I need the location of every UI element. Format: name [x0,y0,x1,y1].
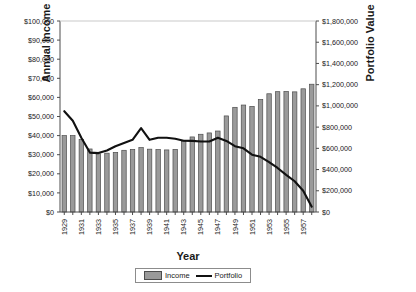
svg-text:$600,000: $600,000 [322,144,352,153]
svg-text:$1,800,000: $1,800,000 [322,17,358,26]
svg-text:1935: 1935 [111,219,120,235]
svg-text:$1,600,000: $1,600,000 [322,38,358,47]
svg-text:$70,000: $70,000 [28,74,54,83]
svg-text:$100,000: $100,000 [24,17,54,26]
y-axis-ticks-right: $0$200,000$400,000$600,000$800,000$1,000… [316,17,358,217]
legend-bar-swatch-icon [144,271,162,280]
line-series-portfolio [64,111,311,207]
legend-item-portfolio: Portfolio [196,271,243,280]
y-axis-ticks-left: $0$10,000$20,000$30,000$40,000$50,000$60… [24,17,60,217]
chart-legend: Income Portfolio [135,268,251,283]
svg-text:$10,000: $10,000 [28,189,54,198]
svg-text:$0: $0 [322,208,330,217]
x-axis-ticks: 1929193119331935193719391941194319451947… [60,212,312,235]
svg-text:$800,000: $800,000 [322,123,352,132]
svg-text:$90,000: $90,000 [28,36,54,45]
svg-text:1953: 1953 [265,219,274,235]
chart-container: Annual Income Portfolio Value Year $0$10… [0,0,416,292]
svg-text:$40,000: $40,000 [28,131,54,140]
svg-text:1931: 1931 [77,219,86,235]
svg-text:1941: 1941 [162,219,171,235]
svg-text:1957: 1957 [299,219,308,235]
svg-text:$1,400,000: $1,400,000 [322,59,358,68]
legend-item-income: Income [144,271,190,280]
svg-text:$80,000: $80,000 [28,55,54,64]
svg-text:$1,200,000: $1,200,000 [322,80,358,89]
legend-line-swatch-icon [196,275,212,277]
svg-text:$400,000: $400,000 [322,165,352,174]
svg-text:1939: 1939 [145,219,154,235]
legend-label-income: Income [165,271,190,280]
svg-text:1929: 1929 [60,219,69,235]
svg-text:$1,000,000: $1,000,000 [322,101,358,110]
svg-text:1943: 1943 [179,219,188,235]
svg-text:1937: 1937 [128,219,137,235]
legend-label-portfolio: Portfolio [215,271,243,280]
svg-text:1951: 1951 [248,219,257,235]
svg-text:$50,000: $50,000 [28,112,54,121]
svg-text:$30,000: $30,000 [28,150,54,159]
svg-text:$60,000: $60,000 [28,93,54,102]
svg-text:$0: $0 [46,208,54,217]
plot-area: $0$10,000$20,000$30,000$40,000$50,000$60… [0,0,416,292]
bar-series-income [62,84,314,212]
svg-text:1945: 1945 [196,219,205,235]
svg-text:1947: 1947 [213,219,222,235]
svg-text:$20,000: $20,000 [28,169,54,178]
svg-text:1933: 1933 [94,219,103,235]
svg-text:$200,000: $200,000 [322,186,352,195]
svg-text:1955: 1955 [282,219,291,235]
svg-text:1949: 1949 [231,219,240,235]
